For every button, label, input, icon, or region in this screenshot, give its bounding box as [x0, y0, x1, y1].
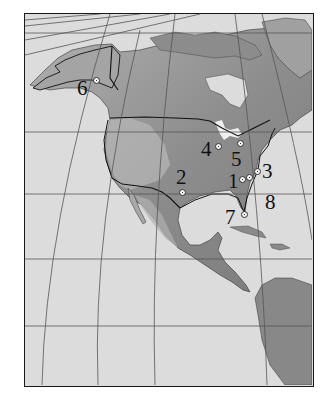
marker-4[interactable] [215, 143, 222, 150]
label-5: 5 [231, 149, 242, 170]
marker-1[interactable] [239, 176, 246, 183]
marker-2[interactable] [179, 189, 186, 196]
label-7: 7 [225, 207, 236, 228]
marker-7[interactable] [241, 211, 248, 218]
label-1: 1 [228, 171, 239, 192]
marker-3[interactable] [254, 168, 261, 175]
label-6: 6 [77, 78, 88, 99]
label-4: 4 [201, 139, 212, 160]
label-2: 2 [176, 167, 187, 188]
label-8: 8 [265, 192, 276, 213]
marker-8[interactable] [246, 174, 253, 181]
marker-6[interactable] [93, 77, 100, 84]
marker-5[interactable] [237, 140, 244, 147]
label-3: 3 [262, 161, 273, 182]
